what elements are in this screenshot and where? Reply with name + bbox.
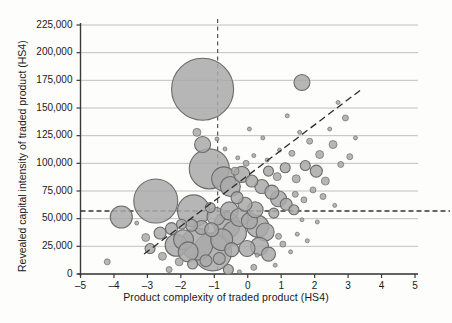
- bubble-marker: [231, 167, 239, 175]
- y-tick-label: 225,000: [9, 19, 73, 30]
- bubble-marker: [135, 221, 139, 225]
- bubble-marker: [142, 233, 150, 241]
- bubble-marker: [307, 138, 313, 144]
- bubble-marker: [213, 253, 225, 265]
- bubble-marker: [321, 177, 329, 185]
- bubble-marker: [333, 203, 337, 207]
- gridlines: [81, 25, 419, 274]
- bubble-marker: [247, 127, 251, 131]
- bubble-chart: 025,00050,00075,000100,000125,000150,000…: [0, 0, 452, 323]
- bubble-marker: [177, 219, 187, 229]
- bubble-marker: [289, 205, 299, 215]
- x-tick-label: 4: [367, 280, 397, 291]
- bubble-marker: [289, 250, 293, 254]
- bubble-marker: [236, 156, 240, 160]
- bubble-marker: [305, 239, 309, 243]
- y-axis-title-wrapper: Revealed capital intensity of traded pro…: [16, 272, 248, 282]
- x-tick-label: 2: [300, 280, 330, 291]
- bubble-marker: [300, 218, 304, 222]
- bubble-marker: [300, 161, 310, 171]
- bubble-marker: [298, 130, 302, 134]
- bubble-marker: [223, 147, 227, 151]
- bubble-marker: [269, 208, 279, 218]
- bubble-markers: [104, 58, 357, 274]
- bubble-marker: [328, 127, 332, 131]
- axis-lines: [78, 23, 419, 276]
- bubble-marker: [289, 150, 295, 156]
- bubble-marker: [280, 163, 290, 173]
- bubble-marker: [172, 58, 234, 120]
- bubble-marker: [251, 264, 257, 270]
- bubble-marker: [239, 241, 255, 257]
- bubble-marker: [255, 253, 259, 257]
- bubble-marker: [329, 141, 337, 149]
- y-axis-title: Revealed capital intensity of traded pro…: [16, 40, 28, 272]
- bubble-marker: [273, 263, 277, 267]
- bubble-marker: [353, 136, 357, 140]
- bubble-marker: [295, 232, 299, 236]
- bubble-marker: [195, 137, 211, 153]
- bubble-marker: [246, 175, 258, 187]
- bubble-marker: [320, 194, 326, 200]
- bubble-marker: [175, 258, 183, 266]
- bubble-marker: [193, 128, 201, 136]
- bubble-marker: [294, 75, 310, 91]
- bubble-marker: [276, 233, 282, 239]
- bubble-marker: [261, 247, 275, 261]
- bubble-marker: [338, 161, 344, 167]
- x-tick-label: 1: [266, 280, 296, 291]
- bubble-marker: [310, 187, 316, 193]
- bubble-marker: [200, 255, 212, 267]
- bubble-marker: [205, 223, 219, 237]
- bubble-marker: [263, 166, 273, 176]
- bubble-marker: [347, 154, 353, 160]
- bubble-marker: [225, 243, 239, 257]
- bubble-marker: [104, 259, 110, 265]
- bubble-marker: [310, 165, 322, 177]
- x-tick-label: 3: [333, 280, 363, 291]
- bubble-marker: [188, 259, 198, 269]
- bubble-marker: [280, 241, 286, 247]
- bubble-marker: [336, 100, 340, 104]
- bubble-marker: [292, 175, 300, 183]
- bubble-marker: [252, 154, 256, 158]
- bubble-marker: [231, 192, 243, 204]
- bubble-marker: [186, 219, 198, 231]
- bubble-marker: [215, 137, 219, 141]
- bubble-marker: [265, 185, 279, 199]
- bubble-marker: [316, 150, 324, 158]
- bubble-marker: [110, 206, 132, 228]
- x-axis-title: Product complexity of traded product (HS…: [0, 291, 452, 303]
- bubble-marker: [134, 179, 178, 223]
- bubble-marker: [273, 173, 281, 181]
- bubble-marker: [301, 197, 307, 203]
- bubble-marker: [154, 227, 166, 239]
- x-tick-label: 5: [400, 280, 430, 291]
- bubble-marker: [342, 115, 348, 121]
- bubble-marker: [158, 252, 166, 260]
- bubble-marker: [243, 160, 249, 166]
- bubble-marker: [261, 136, 265, 140]
- bubble-marker: [292, 191, 298, 197]
- bubble-marker: [315, 220, 319, 224]
- bubble-marker: [285, 114, 289, 118]
